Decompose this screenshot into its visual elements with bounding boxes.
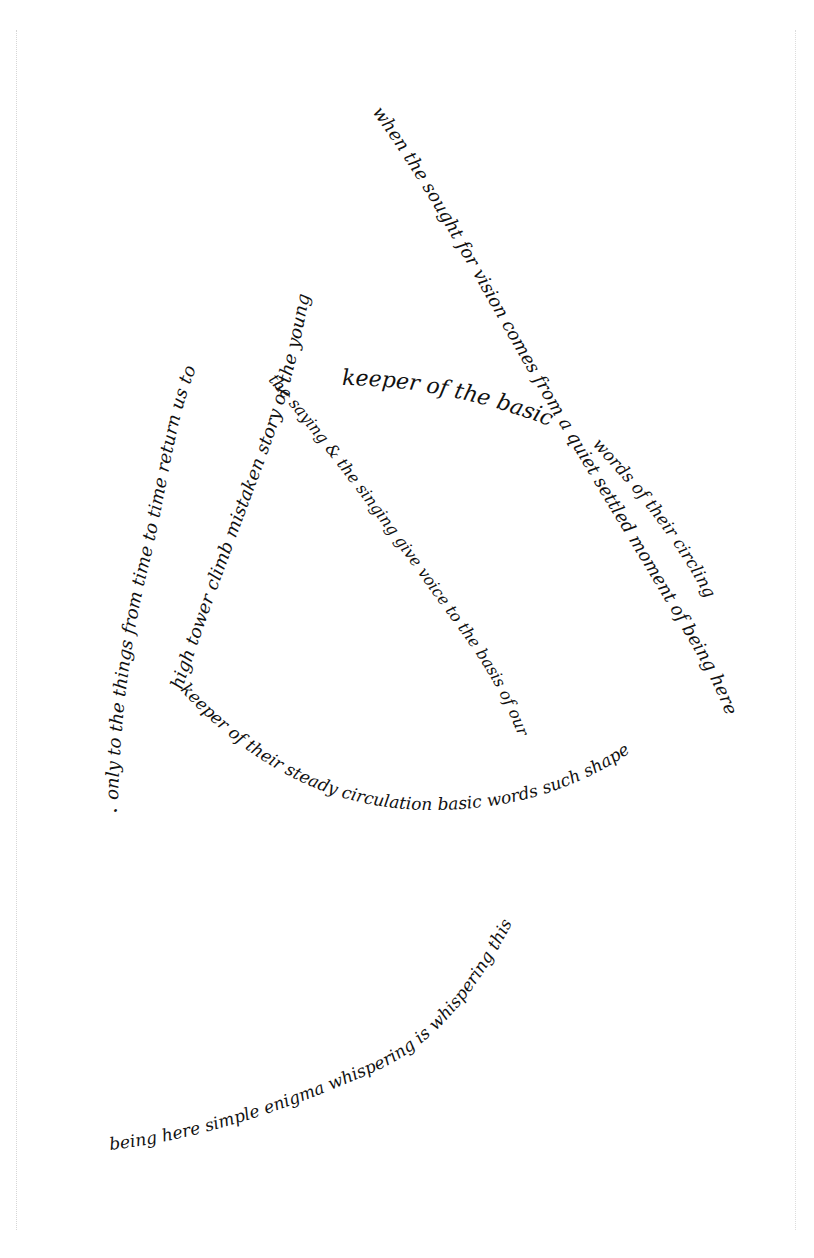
concrete-poem: when the sought for vision comes from a … bbox=[0, 0, 814, 1258]
inverted-bottom-arc-group: keeper of their steady circulation basic… bbox=[177, 679, 633, 814]
poem-line-keeper: keeper of the basic bbox=[342, 365, 557, 431]
poem-line-left-arc: only to the things from time to time ret… bbox=[101, 362, 200, 800]
poem-final-dot: . bbox=[112, 792, 119, 817]
poem-line-tail: being here simple enigma whispering is w… bbox=[108, 915, 516, 1154]
poem-line-saying: the saying & the singing give voice to t… bbox=[265, 370, 533, 740]
poem-line-bottom-arc: keeper of their steady circulation basic… bbox=[177, 679, 633, 814]
poem-line-tower: high tower climb mistaken story of the y… bbox=[166, 292, 314, 692]
inverted-tail-group: being here simple enigma whispering is w… bbox=[108, 915, 516, 1154]
poem-page: when the sought for vision comes from a … bbox=[0, 0, 814, 1258]
